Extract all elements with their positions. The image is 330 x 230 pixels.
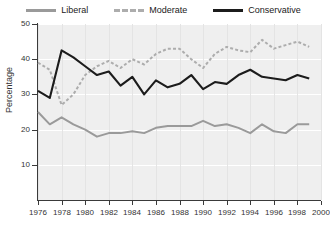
series-line-moderate	[38, 40, 309, 105]
series-line-liberal	[38, 112, 309, 137]
series-line-conservative	[38, 50, 309, 98]
